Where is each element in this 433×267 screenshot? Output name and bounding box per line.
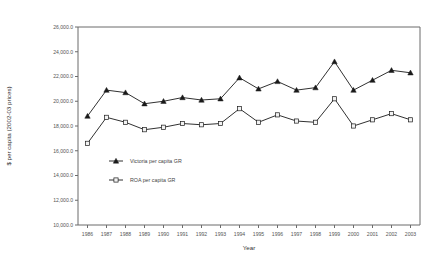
line-chart: 26,000.024,000.022,000.020,000.018,000.0… <box>0 0 433 267</box>
x-axis-tick-label: 1986 <box>82 231 93 237</box>
x-axis-tick-label: 1991 <box>177 231 188 237</box>
data-point-marker-2 <box>294 119 298 123</box>
data-point-marker-2 <box>104 115 108 119</box>
x-axis-tick-label: 2001 <box>367 231 378 237</box>
data-point-marker-2 <box>313 120 317 124</box>
x-axis-tick-label: 1995 <box>253 231 264 237</box>
y-axis-title: $ per capita (2002-03 prices) <box>5 86 12 165</box>
data-point-marker-2 <box>370 118 374 122</box>
x-axis-tick-label: 1990 <box>158 231 169 237</box>
x-axis-tick-label: 1987 <box>101 231 112 237</box>
data-point-marker-2 <box>123 120 127 124</box>
x-axis-tick-label: 1996 <box>272 231 283 237</box>
data-point-marker-2 <box>142 128 146 132</box>
data-point-marker-1 <box>104 87 109 92</box>
data-point-marker-2 <box>408 118 412 122</box>
legend-label-2: ROA per capita GR <box>130 177 176 183</box>
y-axis-tick-label: 18,000.0 <box>53 123 73 129</box>
y-axis-tick-label: 24,000.0 <box>53 49 73 55</box>
legend-marker-2 <box>114 178 118 182</box>
data-point-marker-2 <box>256 120 260 124</box>
legend-label-1: Victoria per capita GR <box>130 158 182 164</box>
data-point-marker-2 <box>237 107 241 111</box>
data-point-marker-1 <box>389 68 394 73</box>
x-axis-tick-label: 1999 <box>329 231 340 237</box>
data-point-marker-1 <box>275 79 280 84</box>
y-axis-tick-label: 10,000.0 <box>53 222 73 228</box>
x-axis-tick-label: 1998 <box>310 231 321 237</box>
data-point-marker-2 <box>199 123 203 127</box>
x-axis-tick-label: 2002 <box>386 231 397 237</box>
y-axis-tick-label: 26,000.0 <box>53 24 73 30</box>
data-point-marker-1 <box>332 59 337 64</box>
data-point-marker-1 <box>180 95 185 100</box>
data-point-marker-2 <box>389 112 393 116</box>
series-line-2 <box>88 99 411 144</box>
x-axis-title: Year <box>243 244 256 251</box>
x-axis-tick-label: 1992 <box>196 231 207 237</box>
data-point-marker-2 <box>85 141 89 145</box>
x-axis-tick-label: 1997 <box>291 231 302 237</box>
data-point-marker-1 <box>237 75 242 80</box>
data-point-marker-2 <box>180 121 184 125</box>
data-point-marker-2 <box>275 113 279 117</box>
x-axis-tick-label: 1993 <box>215 231 226 237</box>
data-point-marker-1 <box>370 78 375 83</box>
x-axis-tick-label: 2003 <box>405 231 416 237</box>
x-axis-tick-label: 1994 <box>234 231 245 237</box>
x-axis-tick-label: 2000 <box>348 231 359 237</box>
data-point-marker-2 <box>218 121 222 125</box>
y-axis-tick-label: 22,000.0 <box>53 73 73 79</box>
data-point-marker-1 <box>351 87 356 92</box>
data-point-marker-2 <box>332 97 336 101</box>
data-point-marker-2 <box>161 125 165 129</box>
chart-container: 26,000.024,000.022,000.020,000.018,000.0… <box>0 0 433 267</box>
y-axis-tick-label: 12,000.0 <box>53 197 73 203</box>
data-point-marker-2 <box>351 124 355 128</box>
y-axis-tick-label: 20,000.0 <box>53 98 73 104</box>
x-axis-tick-label: 1988 <box>120 231 131 237</box>
y-axis-tick-label: 16,000.0 <box>53 148 73 154</box>
series-line-1 <box>88 62 411 116</box>
y-axis-tick-label: 14,000.0 <box>53 172 73 178</box>
x-axis-tick-label: 1989 <box>139 231 150 237</box>
